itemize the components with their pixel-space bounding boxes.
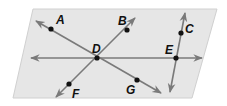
point-dot [94, 55, 99, 60]
point-label: G [126, 83, 135, 97]
point-label: D [92, 42, 101, 56]
point-label: C [185, 22, 194, 36]
point-label: F [72, 87, 80, 101]
point-label: B [118, 14, 127, 28]
point-dot [124, 27, 129, 32]
geometry-plane-diagram: ABCDEFG [0, 0, 227, 106]
point-dot [173, 55, 178, 60]
point-dot [66, 81, 71, 86]
point-label: E [165, 43, 174, 57]
point-dot [134, 77, 139, 82]
point-label: A [55, 13, 65, 27]
point-dot [178, 30, 183, 35]
point-dot [48, 26, 53, 31]
